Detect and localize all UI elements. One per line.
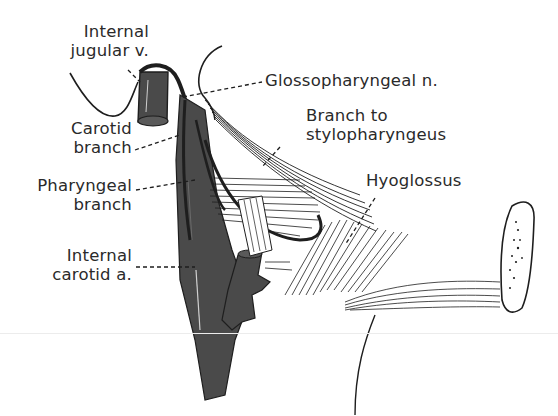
stylopharyngeus-muscle bbox=[238, 196, 272, 256]
label-line: Internal bbox=[71, 22, 149, 41]
label-internal-carotid-artery: Internal carotid a. bbox=[52, 246, 132, 284]
label-line: Branch to bbox=[306, 106, 446, 125]
hyoid-bone bbox=[501, 202, 534, 312]
leader-internal-jugular bbox=[128, 70, 140, 82]
label-branch-to-stylopharyngeus: Branch to stylopharyngeus bbox=[306, 106, 446, 144]
label-line: branch bbox=[37, 195, 132, 214]
page-fold-line bbox=[0, 333, 558, 334]
label-line: Glossopharyngeal n. bbox=[265, 71, 438, 90]
label-line: branch bbox=[71, 138, 132, 157]
label-line: Carotid bbox=[71, 119, 132, 138]
leader-carotid-branch bbox=[135, 135, 180, 150]
label-glossopharyngeal-nerve: Glossopharyngeal n. bbox=[265, 71, 438, 90]
hyoid-muscle-band bbox=[345, 281, 500, 310]
internal-carotid-artery bbox=[176, 95, 250, 400]
label-carotid-branch: Carotid branch bbox=[71, 119, 132, 157]
leader-glossopharyngeal bbox=[183, 82, 262, 97]
hyoglossus-fibers bbox=[285, 220, 408, 295]
label-line: carotid a. bbox=[52, 265, 132, 284]
label-line: Pharyngeal bbox=[37, 176, 132, 195]
internal-jugular-vein bbox=[138, 72, 168, 126]
label-line: Hyoglossus bbox=[366, 171, 462, 190]
label-hyoglossus: Hyoglossus bbox=[366, 171, 462, 190]
label-internal-jugular-vein: Internal jugular v. bbox=[71, 22, 149, 60]
mandible-outline bbox=[355, 315, 375, 415]
label-line: Internal bbox=[52, 246, 132, 265]
label-line: jugular v. bbox=[71, 41, 149, 60]
jugular-outline bbox=[70, 73, 138, 116]
label-pharyngeal-branch: Pharyngeal branch bbox=[37, 176, 132, 214]
label-line: stylopharyngeus bbox=[306, 125, 446, 144]
